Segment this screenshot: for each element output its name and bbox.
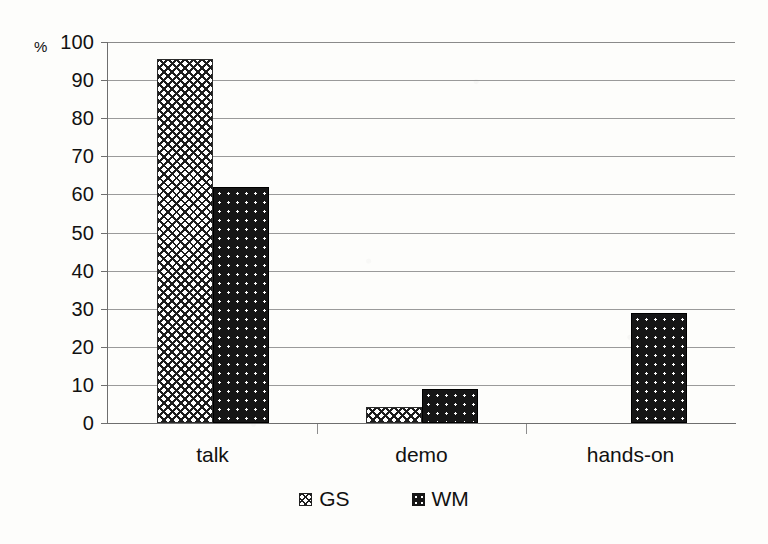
y-axis-tick-label: 80 [28,108,94,128]
y-axis-tick-label: 100 [28,32,94,52]
x-axis-category-label: demo [317,443,526,467]
bar-wm-hands-on [631,313,687,423]
legend-label: GS [319,487,349,511]
legend-label: WM [432,487,469,511]
x-axis-category-label: talk [108,443,317,467]
x-axis-line [108,423,736,424]
legend-item-gs[interactable]: GS [299,487,349,511]
y-axis-tick-label: 50 [28,223,94,243]
y-axis-tick-label: 60 [28,184,94,204]
y-axis-tick-label: 40 [28,261,94,281]
legend-item-wm[interactable]: WM [412,487,469,511]
y-axis-tick-label: 90 [28,70,94,90]
bar-wm-demo [422,389,478,423]
crosshatch-swatch [299,493,312,506]
x-axis-separator [317,424,318,434]
bar-wm-talk [213,187,269,423]
bar-chart: % 1009080706050403020100 talkdemohands-o… [0,0,768,544]
bar-gs-demo [366,407,422,423]
y-axis-tick-label: 30 [28,299,94,319]
dark-dotted-swatch [412,493,425,506]
y-axis-tick-label: 0 [28,413,94,433]
y-axis-tick [101,423,109,424]
bar-gs-talk [157,59,213,423]
chart-legend: GSWM [0,487,768,511]
x-axis-category-label: hands-on [526,443,735,467]
y-axis-tick-label: 20 [28,337,94,357]
y-axis-tick-label: 10 [28,375,94,395]
y-axis-tick-label: 70 [28,146,94,166]
gridline [108,42,735,43]
x-axis-separator [526,424,527,434]
